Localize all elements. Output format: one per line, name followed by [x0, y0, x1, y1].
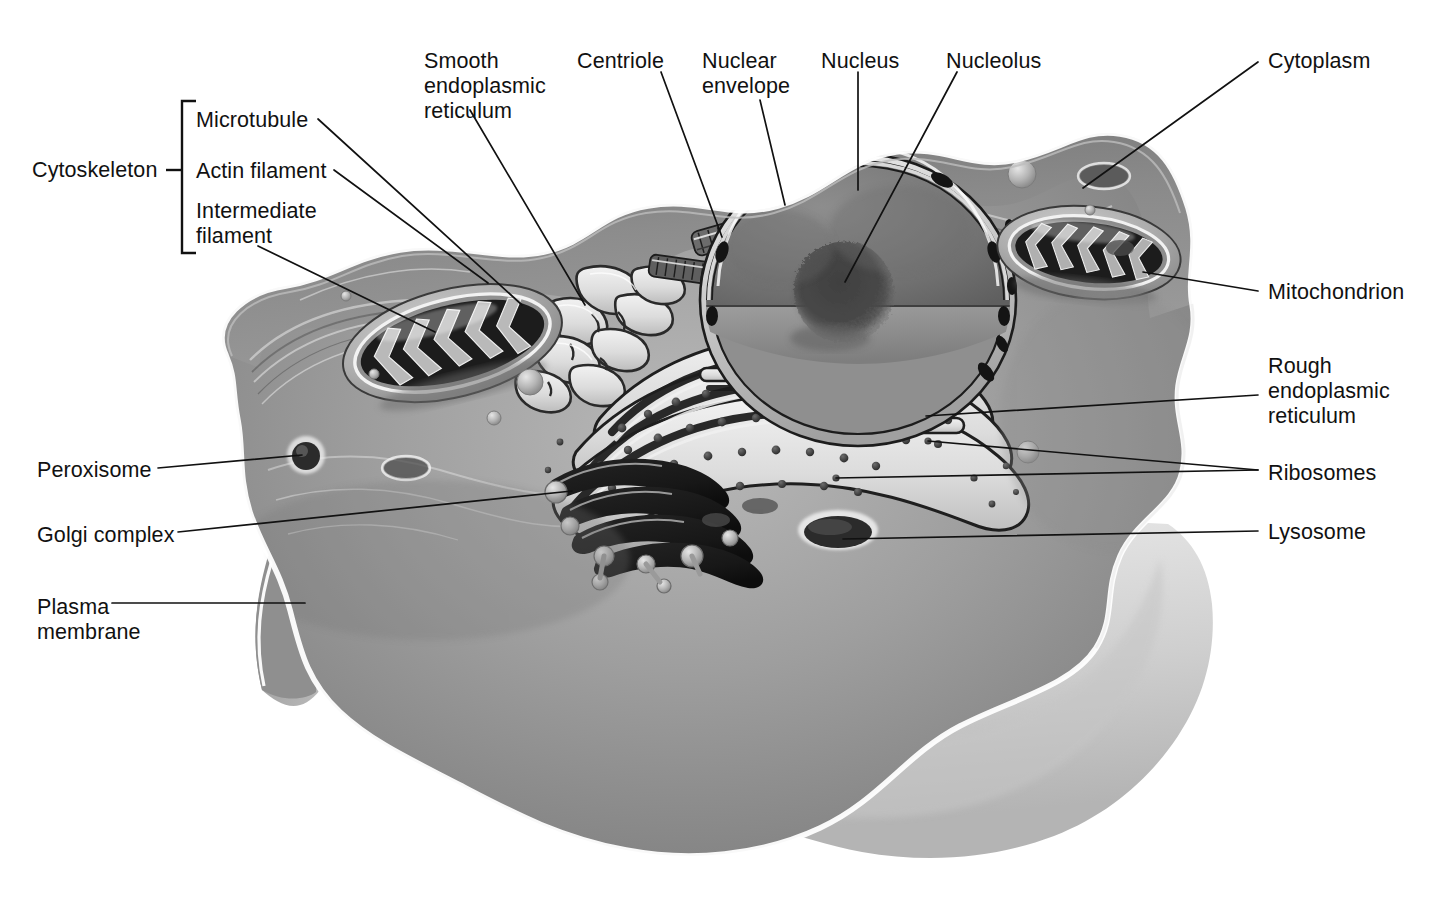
label-smooth-er: Smooth endoplasmic reticulum	[424, 49, 546, 124]
label-peroxisome: Peroxisome	[37, 458, 152, 483]
label-golgi-complex: Golgi complex	[37, 523, 175, 548]
cell-illustration	[0, 0, 1441, 914]
nuclear-envelope-leader	[760, 100, 785, 205]
label-ribosomes: Ribosomes	[1268, 461, 1376, 486]
cell-diagram: Cytoskeleton Microtubule Actin filament …	[0, 0, 1441, 914]
label-nuclear-envelope: Nuclear envelope	[702, 49, 790, 99]
label-microtubule: Microtubule	[196, 108, 308, 133]
label-mitochondrion: Mitochondrion	[1268, 280, 1404, 305]
cytoskeleton-bracket	[166, 101, 196, 253]
label-rough-er: Rough endoplasmic reticulum	[1268, 354, 1390, 429]
label-lysosome: Lysosome	[1268, 520, 1366, 545]
label-plasma-membrane: Plasma membrane	[37, 595, 141, 645]
label-cytoskeleton: Cytoskeleton	[32, 158, 158, 183]
label-nucleolus: Nucleolus	[946, 49, 1041, 74]
label-nucleus: Nucleus	[821, 49, 899, 74]
label-cytoplasm: Cytoplasm	[1268, 49, 1370, 74]
label-intermediate-filament: Intermediate filament	[196, 199, 317, 249]
label-actin-filament: Actin filament	[196, 159, 326, 184]
label-centriole: Centriole	[577, 49, 664, 74]
lysosome	[798, 510, 878, 550]
